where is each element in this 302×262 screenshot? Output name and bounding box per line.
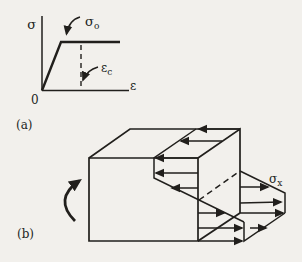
tension-arrow-back-plastic [240,202,281,203]
scanned-figure-page: σ ε 0 σo εc (a) σx (b) [0,0,302,262]
strain-axis-label: ε [130,79,136,93]
axial-stress-subscript: x [277,178,282,188]
block-top-face-edges [89,129,240,158]
panel-a-stress-strain-plot: σ ε 0 σo εc (a) [16,14,136,132]
neutral-axis-dashed-line [199,171,240,200]
origin-label: 0 [31,93,39,107]
axial-stress-label: σx [269,172,282,188]
compression-stress-envelope [154,129,244,222]
panel-a-tag: (a) [16,118,33,132]
critical-strain-subscript: c [107,67,112,77]
applied-moment-arrow [65,181,79,221]
yield-stress-pointer-arrow [67,17,81,34]
panel-b-block-diagram: σx (b) [17,129,285,241]
yield-stress-label: σo [85,14,99,31]
axial-stress-symbol: σ [269,172,277,186]
tension-stress-envelope-front [244,213,285,241]
critical-strain-pointer-arrow [83,67,98,80]
stress-axis-label: σ [27,17,36,32]
figure-canvas: σ ε 0 σo εc (a) σx (b) [0,0,302,262]
yield-stress-symbol: σ [85,14,94,29]
critical-strain-label: εc [101,61,112,77]
yield-stress-subscript: o [94,21,99,31]
panel-b-tag: (b) [17,227,34,241]
block-front-face [89,158,198,241]
